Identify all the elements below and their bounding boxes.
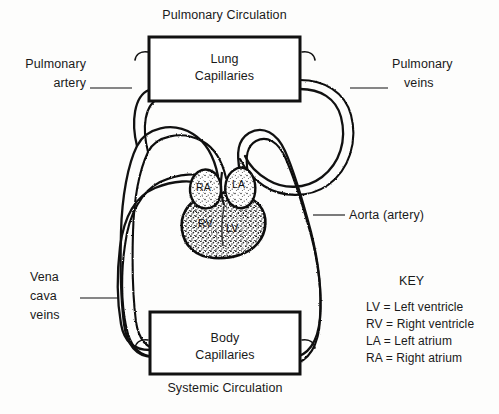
- vena-cava-label-line2: cava: [30, 289, 57, 304]
- chamber-label-lv: LV: [226, 222, 238, 234]
- chamber-label-rv: RV: [198, 217, 213, 229]
- key-entry-la: LA = Left atrium: [366, 334, 452, 348]
- key-entry-lv: LV = Left ventricle: [366, 300, 463, 314]
- key-entry-ra: RA = Right atrium: [366, 351, 462, 365]
- chamber-label-ra: RA: [196, 181, 211, 193]
- body-capillaries-label-line1: Body: [150, 331, 300, 346]
- body-capillaries-label-line2: Capillaries: [150, 348, 300, 363]
- diagram-page: Pulmonary Circulation Lung Capillaries P…: [0, 0, 499, 414]
- key-entry-rv: RV = Right ventricle: [366, 317, 474, 331]
- lung-capillaries-label-line2: Capillaries: [149, 69, 300, 84]
- systemic-circulation-title: Systemic Circulation: [150, 381, 300, 396]
- aorta-label: Aorta (artery): [349, 208, 424, 223]
- pulmonary-circulation-title: Pulmonary Circulation: [149, 8, 300, 23]
- heart-illustration: [182, 168, 266, 259]
- key-heading: KEY: [399, 274, 424, 289]
- lung-capillaries-label-line1: Lung: [149, 52, 300, 67]
- vena-cava-label-line1: Vena: [30, 270, 59, 285]
- vena-cava-label-line3: veins: [30, 308, 60, 323]
- chamber-label-la: LA: [232, 178, 245, 190]
- pulmonary-veins-label-line2: veins: [404, 76, 434, 91]
- pulmonary-artery-label-line1: Pulmonary: [0, 57, 86, 72]
- pulmonary-artery-label-line2: artery: [0, 76, 86, 91]
- pulmonary-veins-label-line1: Pulmonary: [392, 57, 453, 72]
